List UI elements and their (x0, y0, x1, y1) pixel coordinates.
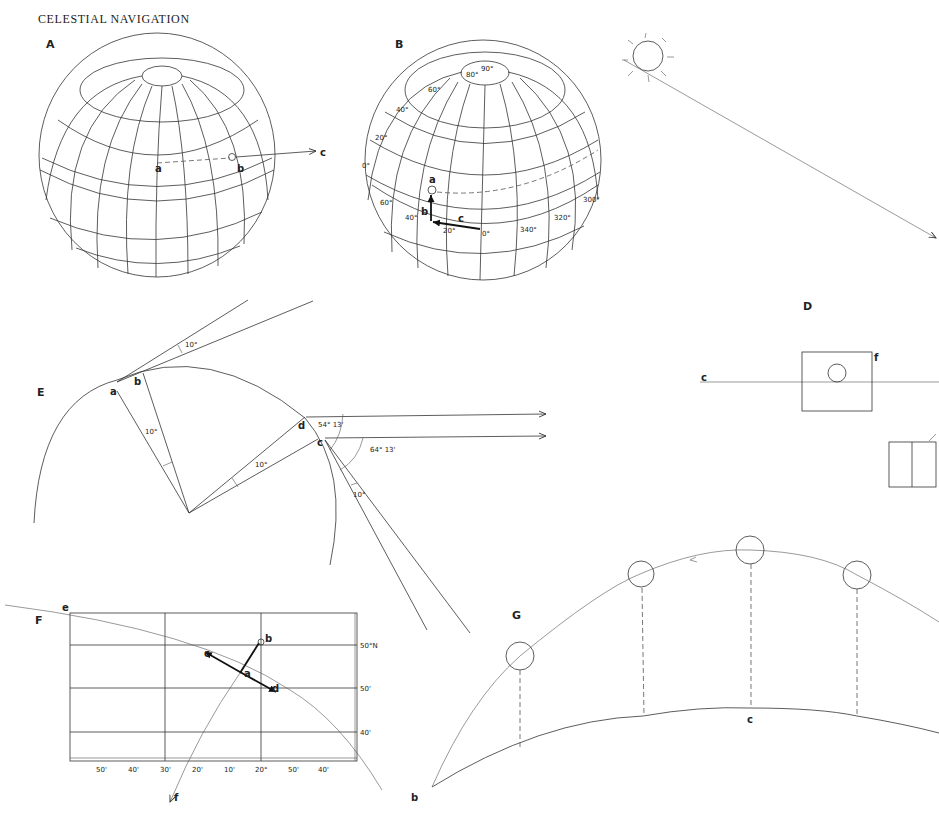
lon-label: 50' (96, 766, 107, 774)
arrow-to-c (236, 151, 316, 157)
label-b: b (411, 792, 418, 803)
label-c: c (701, 372, 707, 383)
label-d: d (272, 683, 279, 694)
label-b: b (237, 163, 244, 174)
lon-40-label: 40° (405, 214, 417, 222)
lat-0-label: 0° (362, 162, 370, 170)
label-a: a (155, 163, 162, 174)
angle-10-ab: 10° (145, 428, 157, 436)
angle-10-lower: 10° (353, 491, 365, 499)
lon-label: 50' (288, 766, 299, 774)
sun-arc (432, 550, 939, 787)
lat-20-label: 20° (375, 134, 387, 142)
angle-54-13: 54° 13' (318, 421, 344, 429)
point-b-marker (229, 154, 236, 161)
label-b: b (421, 206, 428, 217)
label-b: b (265, 633, 272, 644)
lon-0-label: 0° (482, 230, 490, 238)
sun-position-2 (628, 561, 654, 587)
lat-label: 50°N (360, 642, 378, 650)
label-a: a (429, 174, 436, 185)
label-c: c (747, 714, 753, 725)
panel-a-globe: A a b c (39, 33, 326, 277)
label-c: c (317, 437, 323, 448)
label-c: c (320, 147, 326, 158)
panel-b-globe: B 90° 80° 60° (362, 38, 601, 280)
lon-label: 20' (192, 766, 203, 774)
sun-disc-icon (828, 364, 846, 382)
earth-arc (34, 366, 336, 565)
panel-g-label: G (512, 609, 521, 622)
line-e (5, 605, 382, 790)
lon-20-label: 20° (443, 227, 455, 235)
label-a: a (244, 668, 251, 679)
ground-arc (432, 708, 939, 787)
sextant-frame (802, 352, 872, 411)
lat-90-label: 90° (481, 65, 493, 73)
angle-64-13: 64° 13' (370, 446, 396, 454)
celestial-navigation-plate: CELESTIAL NAVIGATION A (0, 0, 939, 817)
mirror-box (889, 442, 936, 487)
lon-label: 20° (255, 766, 267, 774)
panel-g-sun-path: G c b (411, 536, 939, 803)
panel-e: E a b d (34, 300, 546, 633)
panel-d: D c f (700, 300, 939, 487)
label-b: b (134, 376, 141, 387)
lat-40-label: 40° (396, 106, 408, 114)
lat-label: 40' (360, 729, 371, 737)
label-c: c (204, 648, 210, 659)
angle-10-top: 10° (185, 341, 197, 349)
lon-60-label: 60° (380, 199, 392, 207)
panel-b-label: B (395, 38, 403, 51)
lat-80-label: 80° (466, 71, 478, 79)
point-a-marker (428, 186, 436, 194)
sun-icon (622, 33, 674, 82)
label-d: d (298, 420, 305, 431)
angle-10-cd: 10° (255, 461, 267, 469)
sun-ray-line (624, 60, 936, 238)
lon-300-label: 300° (583, 196, 600, 204)
lon-340-label: 340° (520, 226, 537, 234)
label-c: c (458, 213, 464, 224)
label-f: f (874, 352, 879, 363)
label-f: f (174, 792, 179, 803)
lon-label: 30' (160, 766, 171, 774)
lat-label: 50' (360, 685, 371, 693)
label-a: a (110, 386, 117, 397)
lon-label: 40' (318, 766, 329, 774)
lon-label: 10' (224, 766, 235, 774)
panel-f-label: F (35, 614, 43, 627)
label-e: e (62, 602, 69, 613)
sun-ray-diagram (622, 33, 936, 238)
lat-60-label: 60° (428, 86, 440, 94)
lon-320-label: 320° (554, 214, 571, 222)
a-b-dashed-line (157, 158, 230, 163)
panel-a-label: A (46, 38, 55, 51)
panel-d-label: D (803, 300, 812, 313)
panel-e-label: E (37, 386, 45, 399)
panel-f-plot: F e b c a d f 50°N (5, 602, 382, 803)
lon-label: 40' (128, 766, 139, 774)
